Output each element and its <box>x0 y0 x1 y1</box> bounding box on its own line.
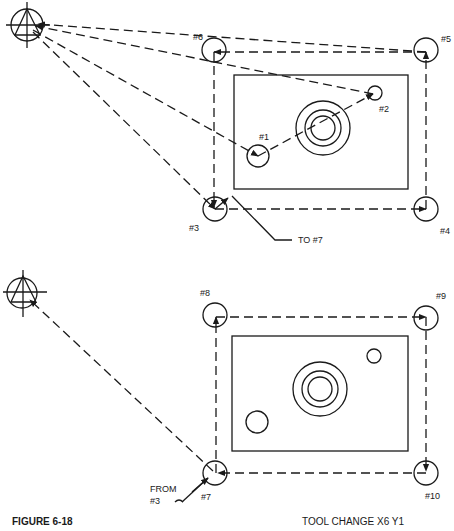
hole-left-bottom <box>246 411 268 433</box>
label-location-6: #6 <box>193 33 203 42</box>
label-location-8: #8 <box>200 289 210 298</box>
label-location-10: #10 <box>425 492 440 501</box>
figure-caption: FIGURE 6-18 <box>12 517 73 527</box>
workpiece-bottom <box>232 336 408 451</box>
tool-change-symbol-bottom <box>3 270 47 317</box>
bore-top <box>296 101 350 155</box>
leader-to-7 <box>232 196 292 240</box>
label-location-4: #4 <box>440 227 450 236</box>
bore-bottom <box>293 362 347 416</box>
label-to-7: TO #7 <box>298 236 323 245</box>
location-8 <box>203 303 227 327</box>
hole-small-bottom <box>367 349 381 363</box>
tool-change-note: TOOL CHANGE X6 Y1 <box>302 517 404 527</box>
label-from: FROM <box>150 485 177 494</box>
toolpath-diagram <box>0 0 454 531</box>
location-5 <box>414 38 438 62</box>
label-location-2: #2 <box>379 105 389 114</box>
label-location-5: #5 <box>441 35 451 44</box>
label-location-9: #9 <box>436 292 446 301</box>
label-location-3: #3 <box>189 224 199 233</box>
label-location-1: #1 <box>259 133 269 142</box>
label-from-3: #3 <box>150 497 160 506</box>
label-location-7: #7 <box>201 493 211 502</box>
